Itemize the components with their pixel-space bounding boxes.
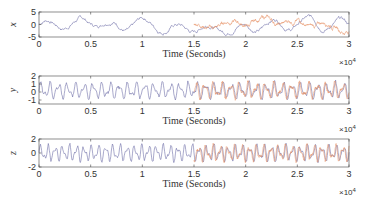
- y-tick-label: 0: [31, 148, 36, 158]
- y-tick-label: 5: [31, 7, 36, 17]
- line-signal: [39, 143, 349, 163]
- x-tick-label: 2: [243, 106, 248, 116]
- x-tick-label: 2: [243, 39, 248, 49]
- x-tick-label: 3: [346, 169, 351, 179]
- subplot-y: 00.511.522.53210-1Time (Seconds)×104y: [7, 71, 357, 134]
- y-tick-label: -5: [28, 32, 36, 42]
- x-multiplier: ×104: [339, 124, 357, 134]
- x-tick-label: 1: [140, 39, 145, 49]
- x-tick-label: 1: [140, 169, 145, 179]
- y-tick-label: 0: [31, 20, 36, 30]
- x-axis-label: Time (Seconds): [162, 48, 225, 60]
- x-axis-label: Time (Seconds): [162, 115, 225, 127]
- y-tick-label: -1: [28, 95, 36, 105]
- x-multiplier: ×104: [339, 187, 357, 197]
- y-tick-label: -2: [28, 162, 36, 172]
- x-axis-label: Time (Seconds): [162, 178, 225, 190]
- line-signal: [39, 80, 349, 100]
- x-tick-label: 0.5: [84, 39, 97, 49]
- x-tick-label: 0: [36, 39, 41, 49]
- x-tick-label: 2: [243, 169, 248, 179]
- x-tick-label: 0: [36, 169, 41, 179]
- x-tick-label: 2.5: [291, 39, 304, 49]
- line-estimate: [194, 143, 349, 162]
- x-tick-label: 3: [346, 39, 351, 49]
- x-tick-label: 0.5: [84, 169, 97, 179]
- y-axis-label: z: [7, 151, 18, 156]
- x-multiplier: ×104: [339, 57, 357, 67]
- x-tick-label: 0.5: [84, 106, 97, 116]
- x-tick-label: 1: [140, 106, 145, 116]
- x-tick-label: 2.5: [291, 169, 304, 179]
- line-estimate: [194, 15, 349, 35]
- x-tick-label: 2.5: [291, 106, 304, 116]
- subplot-z: 00.511.522.5320-2Time (Seconds)×104z: [7, 134, 357, 197]
- figure: 00.511.522.5350-5Time (Seconds)×104x00.5…: [0, 0, 367, 204]
- y-axis-label: y: [7, 87, 18, 93]
- y-axis-label: x: [7, 22, 18, 28]
- x-tick-label: 3: [346, 106, 351, 116]
- y-tick-label: 2: [31, 134, 36, 144]
- subplot-x: 00.511.522.5350-5Time (Seconds)×104x: [7, 7, 357, 67]
- x-tick-label: 0: [36, 106, 41, 116]
